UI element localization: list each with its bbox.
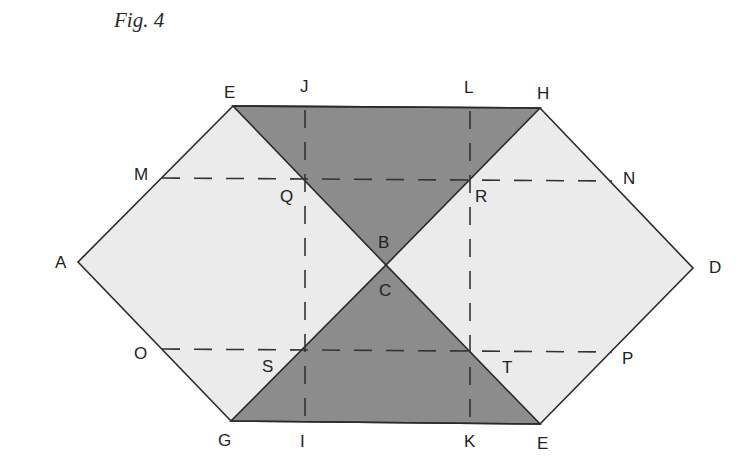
label-L: L (464, 78, 473, 97)
label-E-bottom: E (537, 434, 548, 453)
label-K: K (464, 432, 476, 451)
label-E-top: E (224, 83, 235, 102)
label-R: R (475, 187, 487, 206)
label-I: I (300, 432, 305, 451)
label-J: J (300, 77, 309, 96)
label-G: G (218, 431, 231, 450)
label-P: P (622, 349, 633, 368)
label-D: D (709, 258, 721, 277)
label-A: A (55, 253, 67, 272)
label-O: O (134, 344, 147, 363)
label-T: T (502, 358, 512, 377)
label-S: S (262, 357, 273, 376)
label-C: C (379, 281, 391, 300)
label-N: N (623, 169, 635, 188)
hexagon-diagram: E J L H M N Q R A B C D O P S T G I K E (0, 0, 752, 469)
label-B: B (378, 233, 389, 252)
label-Q: Q (280, 187, 293, 206)
label-H: H (537, 84, 549, 103)
label-M: M (134, 165, 148, 184)
